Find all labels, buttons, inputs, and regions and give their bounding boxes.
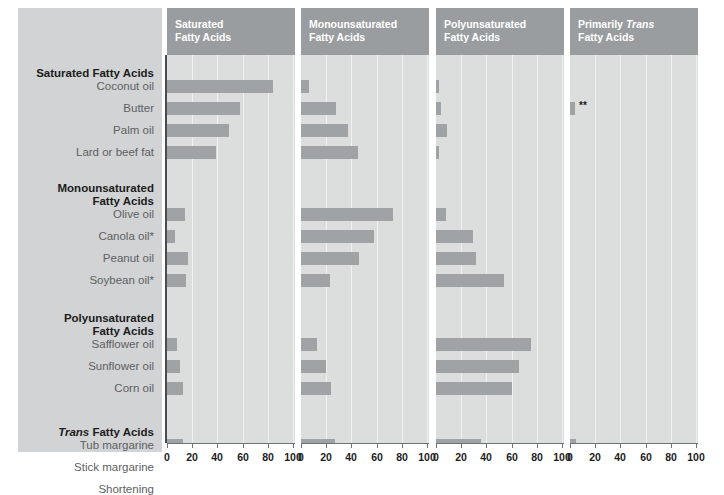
panel-header: MonounsaturatedFatty Acids — [301, 8, 429, 55]
axis-tick — [486, 443, 487, 448]
axis-tick — [436, 443, 437, 448]
gridline — [377, 55, 378, 443]
panel-header-line1: Saturated — [175, 18, 295, 31]
row-label: Corn oil — [114, 382, 154, 394]
gridline — [351, 55, 352, 443]
bar — [301, 146, 358, 159]
bar — [436, 124, 447, 137]
gridline — [671, 55, 672, 443]
axis-tick — [646, 443, 647, 448]
bar — [436, 382, 512, 395]
x-axis — [570, 443, 698, 449]
bar — [167, 252, 188, 265]
bar — [167, 80, 273, 93]
row-label: Soybean oil* — [89, 274, 154, 286]
bar — [167, 146, 216, 159]
axis-tick — [671, 443, 672, 448]
x-axis-tick-label: 80 — [665, 451, 677, 463]
x-axis-tick-label: 60 — [640, 451, 652, 463]
bar — [436, 208, 446, 221]
x-axis-tick-label: 80 — [262, 451, 274, 463]
bar — [167, 102, 240, 115]
x-axis — [436, 443, 564, 449]
axis-tick — [167, 443, 168, 448]
axis-tick — [351, 443, 352, 448]
axis-tick — [402, 443, 403, 448]
x-axis-tick-label: 40 — [211, 451, 223, 463]
gridline — [696, 55, 697, 443]
x-axis-tick-labels: 020406080100 — [436, 451, 564, 465]
x-axis-tick-label: 60 — [371, 451, 383, 463]
x-axis-tick-label: 40 — [614, 451, 626, 463]
plot-area — [167, 55, 295, 443]
bar — [436, 252, 476, 265]
bar — [167, 382, 183, 395]
gridline — [595, 55, 596, 443]
group-heading-italic: Trans — [58, 426, 89, 438]
bar — [301, 338, 317, 351]
axis-tick — [696, 443, 697, 448]
gridline — [427, 55, 428, 443]
bar — [301, 230, 374, 243]
gridline — [512, 55, 513, 443]
footnote-marker: ** — [579, 101, 587, 111]
bar — [301, 382, 331, 395]
bar — [301, 360, 326, 373]
x-axis-tick-label: 60 — [506, 451, 518, 463]
axis-tick — [595, 443, 596, 448]
x-axis-tick-label: 40 — [480, 451, 492, 463]
row-label: Olive oil — [113, 208, 154, 220]
x-axis-tick-label: 20 — [589, 451, 601, 463]
bar — [436, 146, 439, 159]
row-label: Safflower oil — [92, 338, 154, 350]
bar — [436, 102, 441, 115]
x-axis-tick-label: 0 — [433, 451, 439, 463]
axis-tick — [570, 443, 571, 448]
panel-header-line1: Polyunsaturated — [444, 18, 564, 31]
x-axis-tick-label: 80 — [531, 451, 543, 463]
axis-tick — [293, 443, 294, 448]
x-axis-tick-label: 80 — [396, 451, 408, 463]
row-label: Shortening — [98, 483, 154, 495]
panel-header-line1: Primarily Trans — [578, 18, 698, 31]
axis-tick — [537, 443, 538, 448]
axis-line — [167, 443, 295, 444]
axis-line — [301, 443, 429, 444]
bar — [436, 274, 504, 287]
bar — [167, 230, 175, 243]
bar — [167, 208, 185, 221]
x-axis-tick-label: 100 — [687, 451, 705, 463]
bar — [167, 338, 177, 351]
x-axis-tick-labels: 020406080100 — [570, 451, 698, 465]
row-label: Sunflower oil — [88, 360, 154, 372]
row-label: Tub margarine — [80, 439, 154, 451]
axis-tick — [268, 443, 269, 448]
gridline — [402, 55, 403, 443]
group-heading: Monounsaturated — [58, 182, 154, 194]
gridline — [562, 55, 563, 443]
row-label-column: Saturated Fatty AcidsCoconut oilButterPa… — [18, 8, 162, 452]
panel-header: Primarily TransFatty Acids — [570, 8, 698, 55]
row-label: Canola oil* — [98, 230, 154, 242]
axis-line — [436, 443, 564, 444]
panel-header-line2: Fatty Acids — [444, 31, 564, 44]
bar — [301, 124, 348, 137]
gridline — [620, 55, 621, 443]
x-axis — [167, 443, 295, 449]
bar — [301, 274, 330, 287]
axis-tick — [217, 443, 218, 448]
panel-header: PolyunsaturatedFatty Acids — [436, 8, 564, 55]
x-axis-tick-label: 20 — [320, 451, 332, 463]
bar — [436, 338, 531, 351]
x-axis-tick-label: 60 — [237, 451, 249, 463]
bar — [167, 124, 229, 137]
axis-tick — [243, 443, 244, 448]
axis-tick — [326, 443, 327, 448]
row-label: Peanut oil — [103, 252, 154, 264]
x-axis-tick-label: 0 — [298, 451, 304, 463]
axis-tick — [377, 443, 378, 448]
bar — [570, 102, 575, 115]
bar — [167, 360, 180, 373]
x-axis-tick-label: 20 — [455, 451, 467, 463]
